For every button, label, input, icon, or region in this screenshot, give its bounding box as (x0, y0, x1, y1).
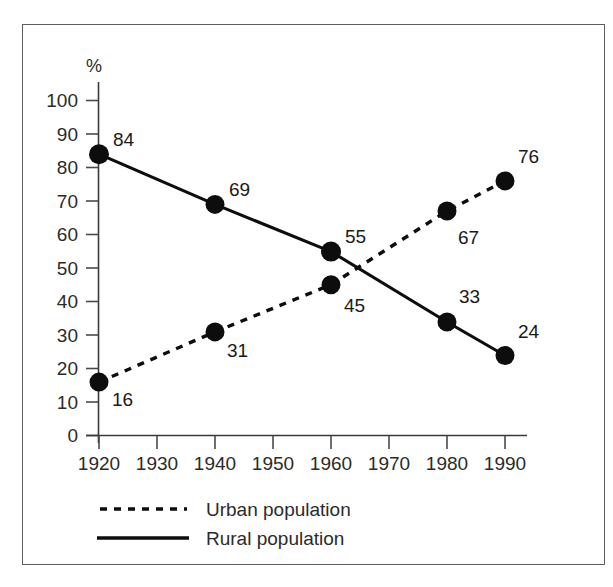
rural-data-point-1990 (496, 346, 515, 365)
rural-data-point-1920 (89, 144, 109, 164)
x-tick-label-1980: 1980 (426, 453, 468, 474)
urban-value-label-1980: 67 (458, 227, 479, 248)
y-tick-label-30: 30 (57, 325, 78, 346)
urban-data-point-1940 (206, 322, 225, 341)
y-tick-label-0: 0 (67, 425, 78, 446)
y-tick-label-90: 90 (57, 124, 78, 145)
y-tick-label-50: 50 (57, 258, 78, 279)
urban-value-label-1920: 16 (112, 389, 133, 410)
legend-item-urban[interactable]: Urban population (100, 499, 351, 520)
y-tick-label-70: 70 (57, 191, 78, 212)
urban-data-point-1920 (90, 373, 109, 392)
rural-value-label-1980: 33 (459, 286, 480, 307)
chart-figure: 100 90 80 70 60 50 40 30 20 10 0 % (0, 0, 613, 587)
urban-data-point-1960 (322, 275, 341, 294)
rural-value-label-1940: 69 (229, 179, 250, 200)
x-tick-label-1960: 1960 (310, 453, 352, 474)
x-tick-label-1940: 1940 (194, 453, 236, 474)
y-tick-label-80: 80 (57, 157, 78, 178)
x-tick-label-1930: 1930 (136, 453, 178, 474)
legend-label-urban: Urban population (206, 499, 351, 520)
chart-legend: Urban population Rural population (97, 499, 351, 549)
y-tick-label-60: 60 (57, 224, 78, 245)
rural-value-label-1920: 84 (113, 129, 135, 150)
y-tick-label-10: 10 (57, 392, 78, 413)
line-chart-canvas: 100 90 80 70 60 50 40 30 20 10 0 % (0, 0, 613, 587)
series-urban-population: 16 31 45 67 76 (90, 146, 540, 410)
y-axis-unit-label: % (86, 56, 102, 76)
rural-data-point-1980 (438, 313, 457, 332)
legend-label-rural: Rural population (206, 528, 344, 549)
urban-value-label-1990: 76 (518, 146, 539, 167)
x-axis: 1920 1930 1940 1950 1960 1970 1980 1990 (78, 436, 527, 475)
rural-data-point-1960 (321, 242, 341, 262)
y-tick-label-20: 20 (57, 358, 78, 379)
x-tick-label-1970: 1970 (368, 453, 410, 474)
x-tick-label-1990: 1990 (484, 453, 526, 474)
rural-data-point-1940 (206, 195, 225, 214)
y-tick-label-100: 100 (46, 90, 78, 111)
urban-data-point-1980 (438, 202, 457, 221)
urban-data-point-1990 (496, 171, 515, 190)
urban-value-label-1940: 31 (227, 340, 248, 361)
x-tick-label-1950: 1950 (252, 453, 294, 474)
rural-value-label-1990: 24 (518, 321, 540, 342)
legend-item-rural[interactable]: Rural population (97, 528, 344, 549)
x-axis-tick-marks (99, 436, 505, 450)
x-tick-label-1920: 1920 (78, 453, 120, 474)
urban-value-label-1960: 45 (344, 295, 365, 316)
rural-value-label-1960: 55 (345, 226, 366, 247)
y-tick-label-40: 40 (57, 291, 78, 312)
